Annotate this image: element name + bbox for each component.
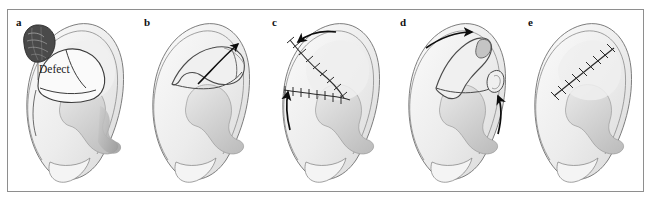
panel-e-illustration: [520, 10, 645, 193]
panel-b-label: b: [144, 16, 150, 28]
panel-d: d: [392, 10, 520, 193]
panel-d-illustration: [392, 10, 520, 193]
panel-a-illustration: [8, 10, 136, 193]
panel-b: b: [136, 10, 264, 193]
panel-e-label: e: [528, 16, 533, 28]
secondary-lobe: [487, 70, 504, 92]
panel-b-illustration: [136, 10, 264, 193]
panel-c-label: c: [272, 16, 277, 28]
panel-d-label: d: [400, 16, 406, 28]
panel-e: e: [520, 10, 645, 193]
panel-a-label: a: [16, 16, 22, 28]
panel-a: a: [8, 10, 136, 193]
defect-label: Defect: [39, 63, 70, 75]
panel-c: c: [264, 10, 392, 193]
figure-frame: a: [7, 9, 644, 192]
panel-c-illustration: [264, 10, 392, 193]
